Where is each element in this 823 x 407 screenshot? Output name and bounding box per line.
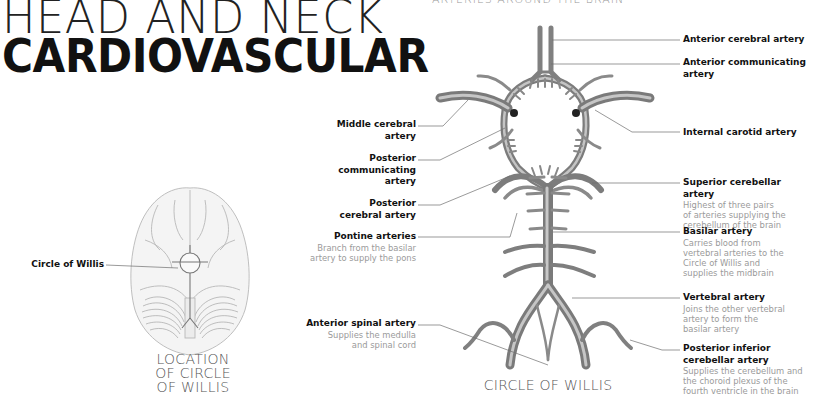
label-anterior-cerebral-artery: Anterior cerebral artery	[683, 34, 823, 46]
label-basilar-artery: Basilar artery Carries blood from verteb…	[683, 226, 823, 278]
brain-illustration	[131, 188, 249, 355]
label-posterior-communicating-artery: Posterior communicating artery	[296, 153, 416, 188]
label-circle-of-willis-location: Circle of Willis	[20, 259, 104, 271]
label-posterior-cerebral-artery: Posterior cerebral artery	[296, 198, 416, 221]
circle-of-willis-diagram	[440, 28, 650, 365]
label-posterior-inferior-cerebellar-artery: Posterior inferior cerebellar artery Sup…	[683, 343, 823, 396]
label-vertebral-artery: Vertebral artery Joins the other vertebr…	[683, 292, 823, 334]
caption-location-circle-of-willis: LOCATION OF CIRCLE OF WILLIS	[138, 352, 248, 394]
label-middle-cerebral-artery: Middle cerebral artery	[296, 119, 416, 142]
label-superior-cerebellar-artery: Superior cerebellar artery Highest of th…	[683, 177, 823, 230]
label-anterior-communicating-artery: Anterior communicating artery	[683, 57, 823, 80]
label-internal-carotid-artery: Internal carotid artery	[683, 127, 823, 139]
caption-circle-of-willis: CIRCLE OF WILLIS	[478, 378, 618, 392]
label-pontine-arteries: Pontine arteries Branch from the basilar…	[286, 231, 416, 263]
label-anterior-spinal-artery: Anterior spinal artery Supplies the medu…	[286, 318, 416, 350]
